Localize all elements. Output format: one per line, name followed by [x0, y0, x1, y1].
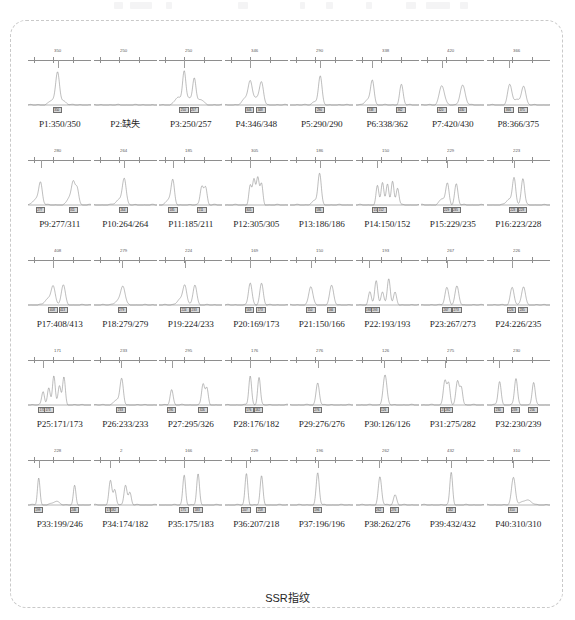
ssr-panel: 229207218P36:207/218 [224, 441, 290, 541]
axis-tick [165, 357, 166, 363]
allele-call-label: 223 [510, 208, 515, 213]
allele-call-box: 375 [518, 107, 528, 113]
electropherogram-trace [487, 169, 550, 209]
allele-call-box: 182 [254, 407, 264, 413]
axis-drop-line [499, 360, 500, 368]
axis-line [487, 160, 550, 161]
allele-call-box: 310 [508, 507, 518, 513]
allele-call-box: 366 [504, 107, 514, 113]
allele-call-box: 264 [119, 207, 129, 213]
axis-size-label: 420 [447, 48, 454, 55]
size-axis-strip: 432 [421, 449, 484, 465]
axis-line [225, 460, 288, 461]
axis-tick [100, 357, 101, 363]
axis-drop-line [53, 260, 54, 268]
allele-call-label: 290 [317, 108, 322, 113]
ssr-panel: 280277311P9:277/311 [27, 141, 93, 241]
size-axis-strip: 126 [356, 349, 419, 365]
axis-drop-line [377, 160, 378, 168]
axis-line [94, 60, 157, 61]
allele-call-label: 420 [438, 108, 443, 113]
allele-call-label: 235 [453, 208, 458, 213]
allele-call-label: 346 [246, 108, 251, 113]
axis-size-label: 150 [316, 248, 323, 255]
panel-label: P34:174/182 [93, 518, 159, 530]
panel-label: P24:226/235 [486, 318, 552, 330]
allele-call-label: 264 [120, 208, 125, 213]
axis-tick [493, 357, 494, 363]
figure-caption: SSR指纹 [11, 589, 564, 605]
electropherogram-trace [225, 269, 288, 309]
axis-tick [532, 157, 533, 163]
allele-call-row: 432 [421, 507, 484, 514]
axis-tick [270, 157, 271, 163]
axis-tick [231, 57, 232, 63]
axis-size-label: 193 [382, 248, 389, 255]
ssr-panel: 233233P26:233/233 [93, 341, 159, 441]
size-axis-strip: 169 [225, 249, 288, 265]
allele-call-label: 273 [454, 308, 459, 313]
electropherogram-trace [94, 69, 157, 109]
size-axis-strip: 290 [290, 49, 353, 65]
axis-tick [315, 357, 316, 363]
allele-call-box: 182 [110, 507, 120, 513]
allele-call-label: 282 [445, 408, 450, 413]
allele-call-label: 362 [398, 108, 403, 113]
allele-call-label: 173 [258, 308, 263, 313]
electropherogram-trace [290, 469, 353, 509]
axis-drop-line [512, 260, 513, 268]
axis-tick [165, 457, 166, 463]
allele-call-row: 279 [94, 307, 157, 314]
axis-tick [296, 357, 297, 363]
allele-call-box: 276 [390, 507, 400, 513]
ssr-panel-grid: 350350P1:350/350250P2:缺失250250257P3:250/… [27, 41, 551, 541]
axis-line [225, 160, 288, 161]
size-axis-strip: 250 [159, 49, 222, 65]
allele-call-row: 186 [290, 207, 353, 214]
allele-call-label: 279 [119, 308, 124, 313]
axis-tick [184, 157, 185, 163]
electropherogram-trace [487, 469, 550, 509]
allele-call-row: 176182 [225, 407, 288, 414]
allele-call-row: 262276 [356, 507, 419, 514]
axis-tick [315, 457, 316, 463]
allele-call-box: 250 [179, 107, 189, 113]
allele-call-label: 338 [369, 108, 374, 113]
axis-tick [119, 457, 120, 463]
axis-tick [204, 357, 205, 363]
allele-call-label: 207 [243, 508, 248, 513]
electropherogram-trace [487, 269, 550, 309]
axis-tick [532, 57, 533, 63]
size-axis-strip: 233 [94, 349, 157, 365]
ssr-panel: 150150152P14:150/152 [355, 141, 421, 241]
axis-line [356, 460, 419, 461]
axis-tick [73, 457, 74, 463]
axis-line [487, 460, 550, 461]
allele-call-box: 233 [190, 307, 200, 313]
axis-tick [100, 57, 101, 63]
axis-line [159, 360, 222, 361]
axis-tick [315, 157, 316, 163]
allele-call-label: 432 [448, 508, 453, 513]
allele-call-row: 420430 [421, 107, 484, 114]
ssr-panel: 196196P37:196/196 [289, 441, 355, 541]
allele-call-label: 186 [316, 208, 321, 213]
panel-label: P39:432/432 [420, 518, 486, 530]
axis-drop-line [442, 60, 443, 68]
panel-label: P21:150/166 [289, 318, 355, 330]
ssr-panel: 169169173P20:169/173 [224, 241, 290, 341]
allele-call-box: 346 [245, 107, 255, 113]
axis-line [94, 460, 157, 461]
axis-tick [532, 457, 533, 463]
size-axis-strip: 166 [159, 449, 222, 465]
panel-label: P29:276/276 [289, 418, 355, 430]
electropherogram-trace [94, 169, 157, 209]
electropherogram-trace [290, 169, 353, 209]
electropherogram-trace [356, 269, 419, 309]
allele-call-box: 152 [377, 207, 387, 213]
axis-tick [466, 457, 467, 463]
axis-tick [139, 57, 140, 63]
axis-tick [250, 457, 251, 463]
allele-call-row: 346348 [225, 107, 288, 114]
axis-tick [119, 157, 120, 163]
